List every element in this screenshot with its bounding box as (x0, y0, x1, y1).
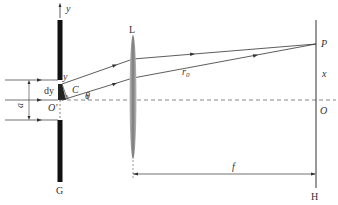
observation-screen-label: H (311, 191, 318, 202)
ray-lower-to-p (133, 44, 316, 78)
point-c-label: C (72, 84, 79, 95)
point-p-label: P (320, 38, 327, 49)
incoming-ray-bottom-arrow (37, 118, 42, 122)
incoming-ray-top-arrow (37, 78, 42, 82)
y-point-label: y (62, 71, 68, 82)
screen-origin-label: O (320, 105, 327, 116)
focal-length-label: f (232, 161, 236, 172)
lens-label: L (129, 24, 135, 35)
ray-upper-to-p (133, 44, 316, 59)
x-distance-label: x (321, 68, 327, 79)
slit-width-label: a (14, 103, 25, 108)
slit-screen-label: G (56, 185, 63, 196)
slit-upper-bar (58, 20, 63, 80)
y-axis-label: y (65, 3, 71, 14)
slit-origin-label: O′ (48, 102, 58, 113)
incoming-ray-mid-arrow (37, 98, 42, 102)
dy-label: dy (44, 85, 54, 96)
slit-lower-bar (58, 120, 63, 182)
ray-upper-to-lens (62, 59, 133, 84)
lens (130, 35, 137, 159)
diffraction-diagram: y G a dy y O′ C θ r0 L f H P x (0, 0, 338, 205)
